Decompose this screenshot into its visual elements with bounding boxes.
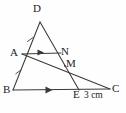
geometry-figure: D A N M B E C 3 cm <box>0 0 126 113</box>
parallel-arrow-an-icon <box>38 50 45 56</box>
segment-DE <box>40 22 79 90</box>
parallel-arrow-be-icon <box>46 87 53 94</box>
vertex-label-B: B <box>3 84 10 95</box>
vertex-label-D: D <box>33 3 41 14</box>
vertex-label-E: E <box>73 89 80 100</box>
length-label-ec: 3 cm <box>84 90 103 100</box>
vertex-label-N: N <box>61 46 69 57</box>
vertex-label-A: A <box>10 47 18 58</box>
vertex-label-C: C <box>112 83 119 94</box>
vertex-label-M: M <box>66 58 76 69</box>
